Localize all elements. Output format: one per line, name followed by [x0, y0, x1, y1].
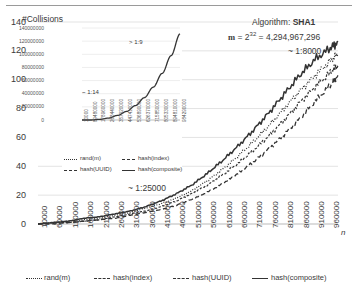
main-legend-label-hash-uuid: hash(UUID) — [192, 273, 232, 282]
x-tick-label: 910000 — [318, 201, 326, 228]
main-legend-swatch-randm — [26, 278, 42, 279]
legend-swatch-hash-index — [122, 159, 135, 160]
x-tick-label: 10000 — [41, 206, 49, 228]
x-tick-label: 310000 — [133, 201, 141, 228]
y-tick-label: 0 — [0, 220, 26, 229]
annotation-algorithm: Algorithm: SHA1 — [252, 17, 315, 27]
inset-x-tick-label: 357920000 — [119, 99, 124, 122]
annotation-m-value: m = 232 = 4,294,967,296 — [228, 31, 320, 42]
legend-label-randm: rand(m) — [80, 155, 101, 161]
x-tick-label: 760000 — [272, 201, 280, 228]
x-tick-label: 810000 — [287, 201, 295, 228]
algorithm-name: SHA1 — [293, 17, 316, 27]
inset-x-tick-label: 447410000 — [128, 99, 133, 122]
legend-swatch-randm — [64, 159, 77, 160]
inset-x-tick-label: 626370000 — [146, 99, 151, 122]
x-tick-label: 260000 — [118, 201, 126, 228]
legend-label-hash-uuid: hash(UUID) — [80, 166, 112, 172]
main-legend-swatch-hash-composite — [252, 278, 268, 279]
inset-x-tick-label: 894810000 — [173, 99, 178, 122]
y-tick-label: 40 — [0, 162, 26, 171]
inset-x-tick-label: 89480000 — [93, 102, 98, 122]
annotation-ratio-8000: ~ 1:8000 — [288, 46, 321, 56]
m-power-exponent: 32 — [250, 31, 257, 37]
inset-legend: rand(m) hash(index) hash(UUID) hash(comp… — [62, 154, 182, 175]
x-tick-label: 710000 — [256, 201, 264, 228]
x-tick-label: 210000 — [103, 201, 111, 228]
legend-label-hash-composite: hash(composite) — [138, 166, 182, 172]
x-tick-label: 460000 — [179, 201, 187, 228]
x-tick-label: 610000 — [226, 201, 234, 228]
algorithm-prefix: Algorithm: — [252, 17, 290, 27]
m-symbol: m — [228, 32, 235, 42]
inset-y-tick-label: 20000000 — [0, 104, 44, 109]
main-legend-swatch-hash-uuid — [173, 278, 189, 279]
x-tick-label: 110000 — [72, 202, 80, 228]
y-tick-label: 60 — [0, 133, 26, 142]
legend-swatch-hash-uuid — [64, 170, 77, 171]
x-tick-label: 510000 — [195, 201, 203, 228]
inset-y-tick-label: 0 — [0, 118, 44, 123]
inset-plot-area — [36, 24, 182, 146]
inset-x-tick-label: 715850000 — [155, 99, 160, 122]
inset-x-tick-label: 805330000 — [164, 99, 169, 122]
y-axis-title: #Collisions — [22, 14, 63, 24]
x-tick-label: 960000 — [333, 201, 341, 228]
inset-x-tick-label: 10000 — [84, 109, 89, 122]
legend-label-hash-index: hash(index) — [138, 155, 169, 161]
x-axis-title: n — [341, 228, 345, 237]
x-tick-label: 560000 — [210, 201, 218, 228]
x-tick-label: 160000 — [87, 201, 95, 228]
main-legend-label-hash-index: hash(index) — [113, 273, 152, 282]
m-equals: = — [237, 32, 242, 42]
annotation-ratio-9: > 1:9 — [129, 39, 143, 45]
x-tick-label: 660000 — [241, 201, 249, 228]
inset-x-tick-label: 984290000 — [182, 99, 187, 122]
inset-y-tick-label: 140000000 — [0, 26, 44, 31]
inset-y-tick-label: 40000000 — [0, 91, 44, 96]
legend-swatch-hash-composite — [122, 170, 135, 171]
annotation-ratio-25000: ~ 1:25000 — [128, 183, 166, 193]
inset-y-tick-label: 60000000 — [0, 78, 44, 83]
inset-x-tick-label: 268440000 — [110, 99, 115, 122]
x-tick-label: 410000 — [164, 201, 172, 228]
y-tick-label: 20 — [0, 191, 26, 200]
inset-x-tick-label: 178960000 — [101, 99, 106, 122]
inset-y-tick-label: 120000000 — [0, 39, 44, 44]
x-tick-label: 60000 — [56, 206, 64, 228]
x-tick-label: 860000 — [303, 201, 311, 228]
annotation-ratio-14: ~ 1:14 — [82, 89, 99, 95]
m-result: = 4,294,967,296 — [259, 32, 321, 42]
x-tick-label: 360000 — [149, 201, 157, 228]
main-legend-swatch-hash-index — [94, 278, 110, 279]
inset-x-tick-label: 536890000 — [137, 99, 142, 122]
inset-y-tick-label: 100000000 — [0, 52, 44, 57]
main-legend: rand(m) hash(index) hash(UUID) hash(comp… — [26, 272, 332, 286]
m-power: 232 — [245, 32, 256, 42]
main-legend-label-hash-composite: hash(composite) — [271, 273, 326, 282]
chart-figure: #Collisions n 020406080100120140 1000060… — [0, 0, 358, 292]
inset-y-tick-label: 80000000 — [0, 65, 44, 70]
main-legend-label-randm: rand(m) — [44, 273, 70, 282]
